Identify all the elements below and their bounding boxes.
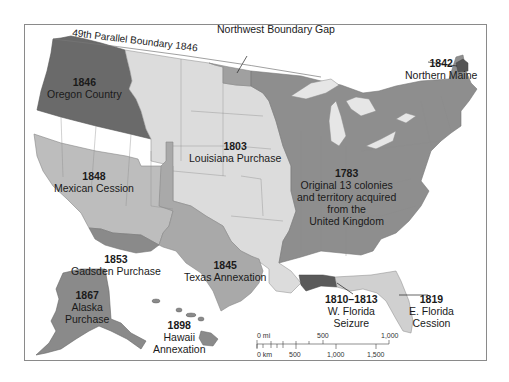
label-name: Original 13 colonies xyxy=(297,179,396,191)
scale-label-km-1500: 1,500 xyxy=(367,351,385,358)
label-year: 1810–1813 xyxy=(325,293,378,305)
scale-bar xyxy=(257,340,389,349)
label-w-florida-seizure: 1810–1813 W. Florida Seizure xyxy=(325,293,378,329)
label-year: 1898 xyxy=(153,319,206,331)
scale-label-km-1000: 1,000 xyxy=(327,351,345,358)
map-frame: 49th Parallel Boundary 1846 1818 Northwe… xyxy=(24,24,487,361)
label-name: Texas Annexation xyxy=(184,271,266,283)
label-year: 1853 xyxy=(71,253,161,265)
label-name: United Kingdom xyxy=(297,215,396,227)
label-original-13-colonies: 1783 Original 13 colonies and territory … xyxy=(297,167,396,227)
label-name: Cession xyxy=(409,317,454,329)
label-name: Mexican Cession xyxy=(54,182,134,194)
label-year: 1783 xyxy=(297,167,396,179)
label-mexican-cession: 1848 Mexican Cession xyxy=(54,170,134,194)
label-name: Seizure xyxy=(325,317,378,329)
label-year: 1848 xyxy=(54,170,134,182)
label-name: Hawaii xyxy=(153,331,206,343)
label-name: and territory acquired xyxy=(297,191,396,203)
label-name: Louisiana Purchase xyxy=(189,152,281,164)
label-hawaii-annexation: 1898 Hawaii Annexation xyxy=(153,319,206,355)
label-year: 1867 xyxy=(65,289,109,301)
label-louisiana-purchase: 1803 Louisiana Purchase xyxy=(189,140,281,164)
label-name: from the xyxy=(297,203,396,215)
label-name: Northwest Boundary Gap xyxy=(217,24,335,35)
label-northwest-gap: 1818 Northwest Boundary Gap xyxy=(217,24,335,35)
scale-label-mi-1000: 1,000 xyxy=(381,332,399,339)
label-name: Alaska xyxy=(65,301,109,313)
label-year: 1846 xyxy=(47,76,122,88)
label-name: E. Florida xyxy=(409,305,454,317)
label-year: 1803 xyxy=(189,140,281,152)
label-gadsden-purchase: 1853 Gadsden Purchase xyxy=(71,253,161,277)
label-name: Purchase xyxy=(65,313,109,325)
region-w-florida xyxy=(299,275,337,291)
label-name: Annexation xyxy=(153,343,206,355)
label-year: 1842 xyxy=(405,57,477,69)
scale-label-km-500: 500 xyxy=(289,351,301,358)
label-northern-maine: 1842 Northern Maine xyxy=(405,57,477,81)
label-name: Gadsden Purchase xyxy=(71,265,161,277)
label-year: 1845 xyxy=(184,259,266,271)
scale-label-km-0: 0 km xyxy=(257,351,272,358)
label-name: Northern Maine xyxy=(405,69,477,81)
scale-label-mi-500: 500 xyxy=(317,332,329,339)
scale-label-mi-0: 0 mi xyxy=(257,332,270,339)
label-alaska-purchase: 1867 Alaska Purchase xyxy=(65,289,109,325)
label-name: Oregon Country xyxy=(47,88,122,100)
label-oregon-country: 1846 Oregon Country xyxy=(47,76,122,100)
label-year: 1819 xyxy=(409,293,454,305)
label-e-florida-cession: 1819 E. Florida Cession xyxy=(409,293,454,329)
label-name: W. Florida xyxy=(325,305,378,317)
label-texas-annexation: 1845 Texas Annexation xyxy=(184,259,266,283)
